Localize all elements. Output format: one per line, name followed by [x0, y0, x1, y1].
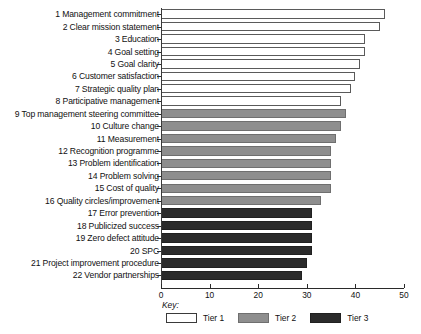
- bar-wrapper: [161, 196, 321, 205]
- bar-category-label: 20 SPC: [0, 246, 159, 256]
- legend-item-tier2: Tier 2: [238, 313, 310, 323]
- bar-wrapper: [161, 246, 312, 255]
- legend: Key: Tier 1Tier 2Tier 3: [166, 300, 416, 323]
- bar-wrapper: [161, 134, 336, 143]
- bar-tier1: [161, 59, 360, 68]
- bar-row: 21 Project improvement procedure: [0, 257, 421, 269]
- axis-tick-label: 30: [292, 290, 322, 300]
- bar-row: 17 Error prevention: [0, 207, 421, 219]
- bar-tier1: [161, 9, 385, 18]
- axis-tick: [210, 284, 211, 288]
- bar-tier3: [161, 233, 312, 242]
- bar-category-label: 13 Problem identification: [0, 158, 159, 168]
- bar-row: 1 Management commitment: [0, 8, 421, 20]
- bar-tier1: [161, 72, 355, 81]
- bar-tier2: [161, 109, 346, 118]
- bar-wrapper: [161, 233, 312, 242]
- legend-swatch-tier3: [310, 313, 341, 323]
- bar-tier3: [161, 208, 312, 217]
- bar-category-label: 1 Management commitment: [0, 9, 159, 19]
- bar-wrapper: [161, 9, 385, 18]
- legend-item-tier1: Tier 1: [166, 313, 238, 323]
- bar-wrapper: [161, 72, 355, 81]
- bar-tier1: [161, 34, 365, 43]
- bar-wrapper: [161, 159, 331, 168]
- bar-wrapper: [161, 121, 341, 130]
- legend-swatch-tier2: [238, 313, 269, 323]
- axis-tick-label: 40: [340, 290, 370, 300]
- bar-category-label: 19 Zero defect attitude: [0, 233, 159, 243]
- bar-row: 20 SPC: [0, 244, 421, 256]
- bar-tier2: [161, 196, 321, 205]
- bar-wrapper: [161, 109, 346, 118]
- legend-label: Tier 1: [203, 313, 224, 323]
- bar-category-label: 16 Quality circles/improvement: [0, 196, 159, 206]
- bar-tier2: [161, 171, 331, 180]
- bar-row: 10 Culture change: [0, 120, 421, 132]
- bar-tier1: [161, 22, 380, 31]
- bar-tier1: [161, 84, 351, 93]
- bar-row: 16 Quality circles/improvement: [0, 195, 421, 207]
- axis-tick: [307, 284, 308, 288]
- bar-row: 3 Education: [0, 33, 421, 45]
- bar-wrapper: [161, 258, 307, 267]
- bar-rows: 1 Management commitment2 Clear mission s…: [0, 8, 421, 282]
- bar-wrapper: [161, 22, 380, 31]
- axis-tick-label: 10: [195, 290, 225, 300]
- axis-tick: [161, 284, 162, 288]
- bar-tier2: [161, 121, 341, 130]
- bar-row: 2 Clear mission statement: [0, 20, 421, 32]
- axis-tick-label: 0: [146, 290, 176, 300]
- legend-label: Tier 2: [275, 313, 296, 323]
- legend-swatch-tier1: [166, 313, 197, 323]
- bar-category-label: 11 Measurement: [0, 134, 159, 144]
- bar-row: 22 Vendor partnerships: [0, 269, 421, 281]
- bar-row: 13 Problem identification: [0, 157, 421, 169]
- bar-category-label: 10 Culture change: [0, 121, 159, 131]
- bar-category-label: 7 Strategic quality plan: [0, 84, 159, 94]
- bar-tier3: [161, 258, 307, 267]
- axis-tick: [355, 284, 356, 288]
- axis-tick: [258, 284, 259, 288]
- bar-tier2: [161, 159, 331, 168]
- bar-category-label: 9 Top management steering committee: [0, 109, 159, 119]
- bar-wrapper: [161, 146, 331, 155]
- bar-tier3: [161, 271, 302, 280]
- legend-item-tier3: Tier 3: [310, 313, 382, 323]
- bar-wrapper: [161, 59, 360, 68]
- bar-row: 6 Customer satisfaction: [0, 70, 421, 82]
- bar-tier1: [161, 96, 341, 105]
- bar-wrapper: [161, 34, 365, 43]
- bar-wrapper: [161, 208, 312, 217]
- legend-items: Tier 1Tier 2Tier 3: [166, 313, 416, 323]
- bar-row: 19 Zero defect attitude: [0, 232, 421, 244]
- axis-tick-label: 50: [389, 290, 419, 300]
- bar-wrapper: [161, 221, 312, 230]
- bar-tier3: [161, 221, 312, 230]
- bar-row: 18 Publicized success: [0, 219, 421, 231]
- bar-category-label: 22 Vendor partnerships: [0, 270, 159, 280]
- bar-category-label: 21 Project improvement procedure: [0, 258, 159, 268]
- bar-row: 15 Cost of quality: [0, 182, 421, 194]
- bar-wrapper: [161, 96, 341, 105]
- bar-row: 8 Participative management: [0, 95, 421, 107]
- horizontal-bar-chart: 1 Management commitment2 Clear mission s…: [0, 0, 421, 334]
- bar-row: 12 Recognition programme: [0, 145, 421, 157]
- bar-row: 14 Problem solving: [0, 170, 421, 182]
- bar-category-label: 18 Publicized success: [0, 221, 159, 231]
- bar-wrapper: [161, 184, 331, 193]
- bar-category-label: 17 Error prevention: [0, 208, 159, 218]
- bar-category-label: 12 Recognition programme: [0, 146, 159, 156]
- axis-tick: [404, 284, 405, 288]
- bar-category-label: 2 Clear mission statement: [0, 22, 159, 32]
- bar-wrapper: [161, 271, 302, 280]
- bar-category-label: 15 Cost of quality: [0, 183, 159, 193]
- bar-wrapper: [161, 84, 351, 93]
- bar-category-label: 5 Goal clarity: [0, 59, 159, 69]
- bar-tier2: [161, 146, 331, 155]
- bar-category-label: 14 Problem solving: [0, 171, 159, 181]
- bar-row: 4 Goal setting: [0, 45, 421, 57]
- bar-category-label: 3 Education: [0, 34, 159, 44]
- bar-category-label: 4 Goal setting: [0, 47, 159, 57]
- bar-tier3: [161, 246, 312, 255]
